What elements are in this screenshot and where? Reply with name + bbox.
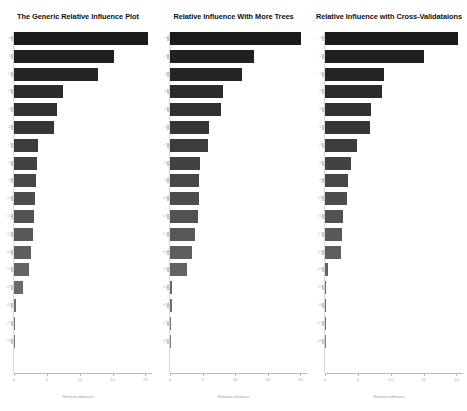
bar-row: v6: [14, 121, 152, 134]
bar-row: v16: [325, 299, 463, 312]
bar: [170, 32, 301, 45]
bar: [170, 50, 254, 63]
x-axis-title: Relative influence: [311, 394, 467, 399]
bar: [170, 299, 172, 312]
bar-row: v5: [14, 103, 152, 116]
y-axis-tick-label: v14: [312, 263, 322, 276]
plot-region: v1v2v3v4v5v6v7v8v9v10v11v12v13v14v15v16v…: [0, 30, 156, 411]
y-axis-tick-label: v16: [312, 299, 322, 312]
bar: [14, 228, 33, 241]
bar: [14, 68, 98, 81]
bar-row: v12: [170, 228, 307, 241]
y-axis-tick-label: v11: [157, 210, 167, 223]
bar: [325, 32, 458, 45]
bar-row: v8: [14, 157, 152, 170]
y-axis-tick-label: v9: [157, 174, 167, 187]
y-axis-tick-label: v6: [312, 121, 322, 134]
y-axis-tick-label: v17: [312, 317, 322, 330]
bar-group: v1v2v3v4v5v6v7v8v9v10v11v12v13v14v15v16v…: [14, 32, 152, 373]
bar: [170, 68, 242, 81]
y-axis-tick-label: v5: [157, 103, 167, 116]
bar-row: v11: [170, 210, 307, 223]
x-axis-tick: [203, 373, 204, 376]
y-axis-tick-label: v14: [157, 263, 167, 276]
y-axis-tick-label: v5: [1, 103, 11, 116]
y-axis-tick-label: v11: [312, 210, 322, 223]
bar: [14, 317, 15, 330]
bar: [14, 263, 29, 276]
x-axis-tick-label: 10: [77, 377, 82, 382]
bar-row: v4: [170, 85, 307, 98]
plot-region: v1v2v3v4v5v6v7v8v9v10v11v12v13v14v15v16v…: [156, 30, 311, 411]
bar: [170, 174, 199, 187]
bar: [325, 263, 328, 276]
bar: [170, 192, 199, 205]
x-axis-tick-label: 0: [13, 377, 15, 382]
y-axis-tick-label: v12: [1, 228, 11, 241]
bar: [14, 50, 114, 63]
y-axis-tick-label: v2: [157, 50, 167, 63]
panel-title: The Generic Relative Influence Plot: [0, 0, 156, 24]
y-axis-tick-label: v17: [157, 317, 167, 330]
bar: [325, 121, 370, 134]
bar: [325, 68, 384, 81]
bar: [170, 317, 171, 330]
x-axis-tick: [358, 373, 359, 376]
plot-panel-2: Relative Influence With More Treesv1v2v3…: [156, 0, 311, 411]
y-axis-tick-label: v7: [157, 139, 167, 152]
y-axis-tick-label: v6: [1, 121, 11, 134]
bar: [325, 210, 343, 223]
bar-row: v12: [325, 228, 463, 241]
y-axis-tick-label: v8: [157, 157, 167, 170]
bar-row: v18: [325, 335, 463, 348]
y-axis-tick-label: v15: [157, 281, 167, 294]
y-axis-tick-label: v10: [157, 192, 167, 205]
x-axis-tick-label: 10: [233, 377, 238, 382]
bar-row: v3: [325, 68, 463, 81]
x-axis-tick-label: 0: [324, 377, 326, 382]
bar: [14, 121, 54, 134]
x-axis-tick: [456, 373, 457, 376]
bar-row: v5: [325, 103, 463, 116]
bar: [14, 210, 34, 223]
bar-row: v10: [14, 192, 152, 205]
x-axis: 05101520: [14, 373, 152, 387]
bar-row: v18: [170, 335, 307, 348]
bar-row: v8: [170, 157, 307, 170]
x-axis-tick: [170, 373, 171, 376]
y-axis-tick-label: v10: [1, 192, 11, 205]
bar: [14, 103, 57, 116]
y-axis-tick-label: v18: [157, 335, 167, 348]
bar-row: v9: [325, 174, 463, 187]
y-axis-tick-label: v8: [1, 157, 11, 170]
y-axis-tick-label: v13: [312, 246, 322, 259]
x-axis-tick: [325, 373, 326, 376]
x-axis-tick: [300, 373, 301, 376]
x-axis-tick-label: 5: [357, 377, 359, 382]
bar-row: v9: [14, 174, 152, 187]
y-axis-tick-label: v8: [312, 157, 322, 170]
bar-row: v2: [170, 50, 307, 63]
bar-row: v6: [325, 121, 463, 134]
bar: [325, 246, 341, 259]
x-axis-tick: [235, 373, 236, 376]
bar-row: v14: [325, 263, 463, 276]
x-axis-line: [170, 373, 307, 374]
bar-row: v11: [325, 210, 463, 223]
y-axis-tick-label: v10: [312, 192, 322, 205]
bar-row: v3: [170, 68, 307, 81]
x-axis-title: Relative influence: [0, 394, 156, 399]
bar-row: v17: [14, 317, 152, 330]
y-axis-tick-label: v13: [157, 246, 167, 259]
bar-row: v2: [14, 50, 152, 63]
x-axis-title: Relative influence: [156, 394, 311, 399]
y-axis-tick-label: v4: [312, 85, 322, 98]
bar: [170, 157, 200, 170]
bar: [325, 103, 371, 116]
bar: [14, 32, 148, 45]
bar-group: v1v2v3v4v5v6v7v8v9v10v11v12v13v14v15v16v…: [170, 32, 307, 373]
x-axis-tick: [145, 373, 146, 376]
bar-row: v7: [170, 139, 307, 152]
bar: [170, 246, 192, 259]
bar: [170, 121, 209, 134]
